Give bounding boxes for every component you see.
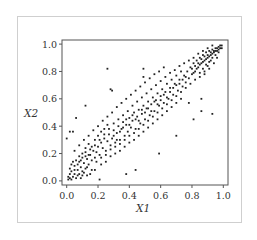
- data-point: [182, 79, 184, 81]
- data-point: [119, 143, 121, 145]
- data-point: [193, 57, 195, 59]
- data-point: [107, 68, 109, 70]
- data-point: [66, 138, 68, 140]
- data-point: [147, 120, 149, 122]
- data-point: [158, 153, 160, 155]
- data-point: [88, 164, 90, 166]
- data-point: [117, 125, 119, 127]
- data-point: [185, 76, 187, 78]
- data-point: [124, 139, 126, 141]
- data-point: [133, 132, 135, 134]
- data-point: [174, 69, 176, 71]
- data-point: [157, 103, 159, 105]
- data-point: [150, 88, 152, 90]
- data-point: [71, 170, 73, 172]
- data-point: [74, 173, 76, 175]
- data-point: [194, 71, 196, 73]
- data-point: [144, 82, 146, 84]
- data-point: [143, 124, 145, 126]
- data-point: [72, 161, 74, 163]
- data-point: [213, 62, 215, 64]
- data-point: [161, 88, 163, 90]
- data-point: [113, 123, 115, 125]
- data-point: [110, 155, 112, 157]
- data-point: [85, 147, 87, 149]
- data-point: [199, 76, 201, 78]
- data-point: [200, 98, 202, 100]
- data-point: [92, 129, 94, 131]
- data-point: [125, 118, 127, 120]
- data-point: [88, 154, 90, 156]
- data-point: [100, 164, 102, 166]
- data-point: [146, 108, 148, 110]
- data-point: [100, 131, 102, 133]
- data-point: [185, 87, 187, 89]
- data-point: [124, 146, 126, 148]
- data-point: [88, 143, 90, 145]
- data-point: [204, 56, 206, 58]
- data-point: [180, 71, 182, 73]
- data-point: [154, 110, 156, 112]
- data-point: [166, 103, 168, 105]
- data-point: [127, 110, 129, 112]
- data-point: [207, 47, 209, 49]
- data-point: [175, 75, 177, 77]
- data-point: [144, 112, 146, 114]
- data-point: [80, 177, 82, 179]
- data-point: [138, 128, 140, 130]
- data-point: [74, 169, 76, 171]
- x-tick-label: 1.0: [216, 190, 231, 201]
- data-point: [183, 75, 185, 77]
- data-point: [179, 79, 181, 81]
- data-point: [143, 105, 145, 107]
- y-tick-label: 0.8: [42, 66, 57, 77]
- data-point: [75, 177, 77, 179]
- data-point: [114, 142, 116, 144]
- data-point: [85, 155, 87, 157]
- data-point: [110, 88, 112, 90]
- data-point: [163, 94, 165, 96]
- data-point: [111, 90, 113, 92]
- data-point: [219, 47, 221, 49]
- x-tick-label: 0.4: [122, 190, 137, 201]
- data-point: [154, 101, 156, 103]
- data-point: [130, 127, 132, 129]
- data-point: [166, 110, 168, 112]
- data-point: [215, 50, 217, 52]
- data-point: [172, 87, 174, 89]
- data-point: [128, 135, 130, 137]
- data-point: [99, 139, 101, 141]
- data-point: [86, 158, 88, 160]
- data-point: [107, 124, 109, 126]
- data-point: [197, 53, 199, 55]
- data-point: [122, 127, 124, 129]
- data-point: [67, 179, 69, 181]
- data-point: [202, 50, 204, 52]
- data-point: [158, 105, 160, 107]
- data-point: [204, 60, 206, 62]
- data-point: [221, 45, 223, 47]
- data-point: [169, 72, 171, 74]
- data-point: [135, 118, 137, 120]
- data-point: [114, 146, 116, 148]
- data-point: [174, 83, 176, 85]
- data-point: [122, 114, 124, 116]
- data-point: [171, 99, 173, 101]
- y-tick-label: 0.0: [42, 175, 57, 186]
- data-point: [207, 57, 209, 59]
- data-point: [114, 153, 116, 155]
- data-point: [128, 124, 130, 126]
- data-point: [155, 84, 157, 86]
- data-point: [180, 91, 182, 93]
- data-point: [141, 97, 143, 99]
- data-point: [78, 173, 80, 175]
- data-point: [88, 135, 90, 137]
- data-point: [200, 62, 202, 64]
- data-point: [80, 159, 82, 161]
- data-point: [143, 131, 145, 133]
- data-point: [102, 147, 104, 149]
- data-point: [179, 65, 181, 67]
- data-point: [100, 157, 102, 159]
- data-point: [117, 118, 119, 120]
- data-point: [111, 112, 113, 114]
